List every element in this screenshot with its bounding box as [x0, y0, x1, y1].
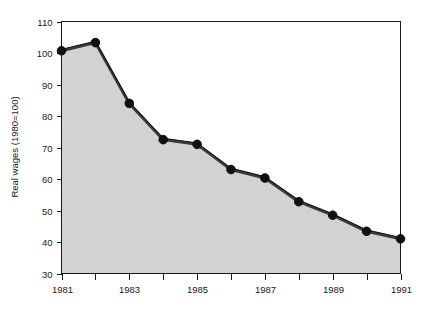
y-tick-label-70: 70	[42, 143, 53, 154]
data-point-1990	[362, 227, 371, 236]
y-tick-label-50: 50	[42, 206, 53, 217]
data-point-1991	[396, 235, 405, 244]
x-tick-label-1985: 1985	[187, 284, 208, 295]
x-tick-label-1991: 1991	[391, 284, 412, 295]
y-tick-label-60: 60	[42, 174, 53, 185]
y-tick-label-30: 30	[42, 269, 53, 280]
data-point-1983	[125, 99, 134, 108]
data-point-1982	[91, 38, 100, 47]
y-tick-label-100: 100	[37, 48, 53, 59]
y-tick-label-110: 110	[37, 17, 52, 28]
real-wages-area-chart: 30405060708090100110 1981198319851987198…	[0, 0, 424, 310]
data-point-1988	[295, 197, 304, 206]
x-tick-label-1983: 1983	[119, 284, 140, 295]
data-point-1989	[328, 211, 337, 220]
data-point-1987	[261, 174, 270, 183]
y-tick-label-90: 90	[42, 80, 53, 91]
y-tick-label-40: 40	[42, 237, 53, 248]
y-axis-title: Real wages (1980=100)	[9, 96, 20, 197]
data-point-1985	[193, 140, 202, 149]
data-point-1986	[227, 165, 236, 174]
chart-figure: 30405060708090100110 1981198319851987198…	[0, 0, 424, 310]
data-point-1981	[57, 46, 66, 55]
x-tick-label-1989: 1989	[323, 284, 344, 295]
x-tick-label-1987: 1987	[255, 284, 276, 295]
data-point-1984	[159, 135, 168, 144]
y-tick-label-80: 80	[42, 111, 53, 122]
x-tick-label-1981: 1981	[52, 284, 73, 295]
